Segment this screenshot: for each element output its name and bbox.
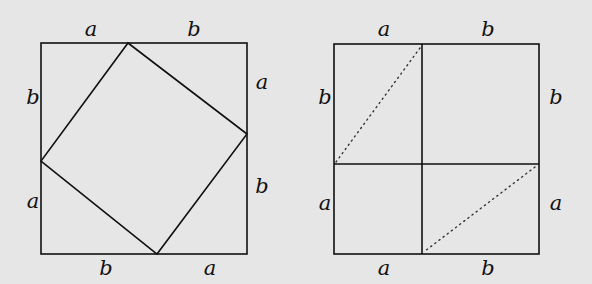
right-figure-label: b [549, 85, 562, 109]
diagram-canvas: ababbabaabbabaab [0, 0, 592, 284]
left-figure-label: b [187, 17, 200, 41]
left-figure-label: a [27, 189, 40, 213]
left-figure-label: a [256, 70, 269, 94]
right-figure-label: a [378, 256, 391, 280]
left-figure-label: b [255, 174, 268, 198]
outer-square [334, 44, 539, 254]
right-figure-label: a [319, 191, 332, 215]
inner-tilted-square [41, 43, 247, 254]
left-figure-label: b [26, 85, 39, 109]
left-figure-label: a [85, 17, 98, 41]
right-figure-label: b [481, 256, 494, 280]
right-figure-label: a [550, 191, 563, 215]
pythagorean-proof-diagram: ababbabaabbabaab [0, 0, 592, 284]
dotted-diagonal [425, 167, 535, 251]
left-figure-label: a [204, 256, 217, 280]
right-figure-label: a [378, 17, 391, 41]
outer-square [41, 43, 247, 254]
right-figure-label: b [318, 85, 331, 109]
right-figure-label: b [481, 17, 494, 41]
dotted-diagonal [336, 48, 420, 162]
left-figure-label: b [99, 256, 112, 280]
